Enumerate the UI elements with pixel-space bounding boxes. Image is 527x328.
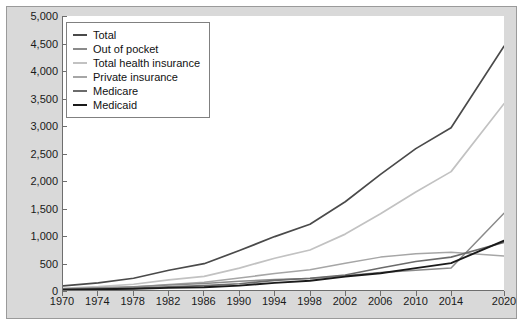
x-axis-tick-label: 1982 <box>156 296 180 307</box>
chart-container: 05001,0001,5002,0002,5003,0003,5004,0004… <box>0 0 527 328</box>
legend-item: Total health insurance <box>73 56 200 70</box>
x-axis-tick-label: 1990 <box>227 296 251 307</box>
x-axis-tick-label: 2010 <box>403 296 427 307</box>
x-axis-tick-label: 1998 <box>297 296 321 307</box>
x-axis-tick-mark <box>504 291 505 296</box>
x-axis-tick-mark <box>345 291 346 296</box>
legend-item-label: Private insurance <box>93 72 178 83</box>
legend-item: Medicaid <box>73 98 200 112</box>
x-axis-tick-mark <box>274 291 275 296</box>
x-axis-tick-mark <box>451 291 452 296</box>
x-axis-tick-mark <box>203 291 204 296</box>
x-axis-tick-mark <box>133 291 134 296</box>
x-axis-tick-mark <box>416 291 417 296</box>
legend-item: Private insurance <box>73 70 200 84</box>
legend-swatch-icon <box>73 90 87 92</box>
legend-item-label: Total <box>93 30 116 41</box>
legend-item-label: Total health insurance <box>93 58 200 69</box>
x-axis-tick-mark <box>97 291 98 296</box>
legend: TotalOut of pocketTotal health insurance… <box>66 22 210 118</box>
legend-item-label: Out of pocket <box>93 44 158 55</box>
x-axis-tick-mark <box>310 291 311 296</box>
x-axis-tick-label: 1978 <box>120 296 144 307</box>
x-axis-tick-label: 1970 <box>50 296 74 307</box>
legend-swatch-icon <box>73 76 87 78</box>
x-axis-tick-label: 2006 <box>368 296 392 307</box>
x-axis-tick-mark <box>168 291 169 296</box>
x-axis-tick-label: 2002 <box>333 296 357 307</box>
legend-swatch-icon <box>73 62 87 64</box>
legend-item-label: Medicare <box>93 86 138 97</box>
legend-item: Total <box>73 28 200 42</box>
legend-swatch-icon <box>73 104 87 106</box>
x-axis-tick-label: 1994 <box>262 296 286 307</box>
x-axis-tick-label: 1974 <box>85 296 109 307</box>
x-axis-tick-label: 2020 <box>492 296 516 307</box>
legend-swatch-icon <box>73 34 87 36</box>
x-axis-tick-mark <box>380 291 381 296</box>
x-axis-tick-mark <box>62 291 63 296</box>
legend-item: Out of pocket <box>73 42 200 56</box>
x-axis-tick-label: 1986 <box>191 296 215 307</box>
x-axis-tick-label: 2014 <box>439 296 463 307</box>
x-axis-tick-mark <box>239 291 240 296</box>
legend-swatch-icon <box>73 48 87 50</box>
legend-item-label: Medicaid <box>93 100 137 111</box>
legend-item: Medicare <box>73 84 200 98</box>
